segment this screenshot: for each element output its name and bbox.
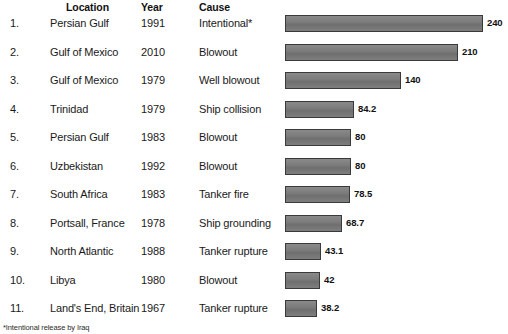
table-row: 3.Gulf of Mexico1979Well blowout140	[0, 73, 508, 99]
row-location: North Atlantic	[50, 244, 113, 258]
row-year: 1992	[141, 159, 165, 173]
bar-value-label: 68.7	[346, 217, 364, 228]
bar-value-label: 42	[324, 274, 334, 285]
bar-value-label: 38.2	[321, 302, 339, 313]
row-year: 1978	[141, 216, 165, 230]
row-cause: Tanker rupture	[199, 301, 268, 315]
bar-value-label: 84.2	[358, 103, 376, 114]
table-row: 4.Trinidad1979Ship collision84.2	[0, 102, 508, 128]
bar-value-label: 80	[355, 131, 365, 142]
row-year: 1983	[141, 187, 165, 201]
row-location: South Africa	[50, 187, 108, 201]
row-year: 1979	[141, 102, 165, 116]
row-year: 1988	[141, 244, 165, 258]
row-rank: 10.	[10, 273, 50, 287]
row-rank: 9.	[10, 244, 50, 258]
bar-value-label: 210	[462, 46, 478, 57]
row-cause: Blowout	[199, 130, 237, 144]
row-rank: 5.	[10, 130, 50, 144]
row-year: 1991	[141, 16, 165, 30]
table-row: 7.South Africa1983Tanker fire78.5	[0, 187, 508, 213]
table-row: 1.Persian Gulf1991Intentional*240	[0, 16, 508, 42]
row-location: Portsall, France	[50, 216, 125, 230]
bar	[285, 215, 342, 232]
bar	[285, 129, 351, 146]
row-rank: 6.	[10, 159, 50, 173]
bar	[285, 15, 483, 32]
bar	[285, 243, 321, 260]
bar-value-label: 140	[405, 74, 421, 85]
table-row: 9.North Atlantic1988Tanker rupture43.1	[0, 244, 508, 270]
bar	[285, 272, 320, 289]
bar	[285, 186, 350, 203]
oil-spill-ranking-chart: Location Year Cause 1.Persian Gulf1991In…	[0, 0, 508, 334]
row-location: Gulf of Mexico	[50, 45, 118, 59]
row-year: 2010	[141, 45, 165, 59]
row-cause: Ship collision	[199, 102, 261, 116]
table-row: 5.Persian Gulf1983Blowout80	[0, 130, 508, 156]
column-header-location: Location	[66, 1, 109, 13]
row-location: Gulf of Mexico	[50, 73, 118, 87]
row-cause: Blowout	[199, 159, 237, 173]
row-rank: 7.	[10, 187, 50, 201]
bar	[285, 158, 351, 175]
row-rank: 11.	[10, 301, 50, 315]
row-location: Persian Gulf	[50, 16, 109, 30]
row-cause: Tanker rupture	[199, 244, 268, 258]
row-year: 1967	[141, 301, 165, 315]
row-rank: 8.	[10, 216, 50, 230]
row-location: Persian Gulf	[50, 130, 109, 144]
row-location: Uzbekistan	[50, 159, 103, 173]
row-location: Land's End, Britain	[50, 301, 139, 315]
row-location: Trinidad	[50, 102, 88, 116]
row-cause: Blowout	[199, 45, 237, 59]
table-row: 6.Uzbekistan1992Blowout80	[0, 159, 508, 185]
row-rank: 4.	[10, 102, 50, 116]
table-row: 10.Libya1980Blowout42	[0, 273, 508, 299]
row-cause: Ship grounding	[199, 216, 271, 230]
row-rank: 2.	[10, 45, 50, 59]
row-rank: 1.	[10, 16, 50, 30]
row-rank: 3.	[10, 73, 50, 87]
row-cause: Blowout	[199, 273, 237, 287]
row-location: Libya	[50, 273, 76, 287]
bar-value-label: 43.1	[325, 245, 343, 256]
bar-value-label: 240	[487, 17, 503, 28]
bar	[285, 300, 317, 317]
row-year: 1983	[141, 130, 165, 144]
bar-value-label: 80	[355, 160, 365, 171]
footnote: *Intentional release by Iraq	[3, 323, 89, 332]
row-year: 1980	[141, 273, 165, 287]
column-header-cause: Cause	[199, 1, 230, 13]
row-cause: Well blowout	[199, 73, 259, 87]
row-cause: Tanker fire	[199, 187, 249, 201]
bar-value-label: 78.5	[354, 188, 372, 199]
row-cause: Intentional*	[199, 16, 252, 30]
bar	[285, 72, 401, 89]
bar	[285, 101, 354, 118]
table-row: 2.Gulf of Mexico2010Blowout210	[0, 45, 508, 71]
bar	[285, 44, 458, 61]
column-header-year: Year	[141, 1, 163, 13]
table-row: 8.Portsall, France1978Ship grounding68.7	[0, 216, 508, 242]
row-year: 1979	[141, 73, 165, 87]
